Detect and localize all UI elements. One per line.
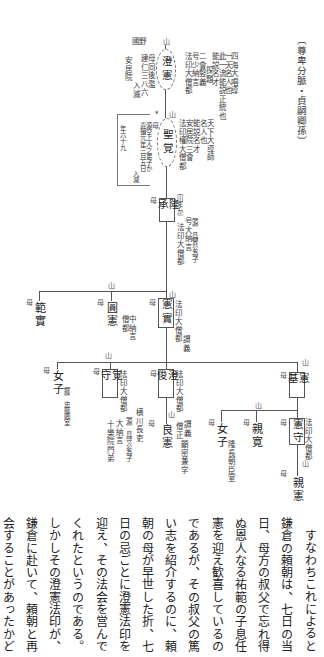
mountain-mark: 山 xyxy=(104,352,111,359)
text-column: 憲を迎え歓喜しているの xyxy=(204,517,227,657)
mother-mark: 母 xyxy=(92,368,99,375)
text-column: しかしその澄憲法印が、 xyxy=(42,517,65,657)
asterisk-mark: * xyxy=(155,110,159,118)
lineage-line xyxy=(165,90,166,118)
person-kenki: 憲基 xyxy=(289,372,305,398)
person-ryoken-name: 良憲 xyxy=(161,424,172,449)
note: 〔源〕具守公為子 xyxy=(125,412,132,462)
mother-mark: 母 xyxy=(279,372,286,379)
children-branch-line xyxy=(57,362,297,363)
grandchildren-branch-line xyxy=(221,410,297,411)
lineage-line xyxy=(110,362,111,369)
note: 横川長吏 xyxy=(134,408,142,442)
place-label: 國野 xyxy=(132,38,146,46)
text-column: い志を紹介するのに、頼 xyxy=(158,517,181,657)
mother-mark: 母 xyxy=(148,299,155,306)
note: 僧都 xyxy=(120,315,128,332)
text-column: 日、母方の叔父で忘れ得 xyxy=(250,517,273,657)
note: 法印大僧都 xyxy=(118,370,126,413)
person-kakushu: 覚守 xyxy=(102,369,118,398)
text-column: ぬ恩人なる祐範の子息任 xyxy=(227,517,250,657)
lineage-line xyxy=(297,445,298,476)
person-chojun: 澄俊 xyxy=(158,369,174,398)
lineage-line xyxy=(221,410,222,422)
note: 隆長朝臣室 xyxy=(226,440,234,483)
note: 嘉禎元年三月五日 xyxy=(138,122,145,172)
person-name: 憲實 xyxy=(161,299,172,327)
mother-mark: 母 xyxy=(42,367,49,374)
sibling-branch-line xyxy=(39,291,166,292)
mother-mark: 母 xyxy=(149,197,156,204)
mother-mark: 母 xyxy=(207,419,214,426)
bracket-note: 〔山まか〕 xyxy=(176,189,183,220)
page-title: 〔尊卑分脈・貞嗣卿孫〕 xyxy=(296,36,306,146)
note: 建仁三八六 xyxy=(139,54,147,97)
note: 入滅 xyxy=(131,81,139,98)
mother-mark: 母 xyxy=(96,299,103,306)
mountain-mark: 山 xyxy=(301,460,308,467)
lineage-line xyxy=(256,410,257,422)
note: 顕密兼学 xyxy=(179,440,187,474)
text-column: 朝の母が早世した折、七 xyxy=(134,517,157,657)
note: 年六十九 xyxy=(119,125,126,150)
note: 〔藤〕忠藤卿室 xyxy=(63,382,70,425)
lineage-line xyxy=(297,362,298,372)
lineage-line xyxy=(166,167,167,198)
mountain-mark: 山 xyxy=(107,282,114,289)
text-column: 迎え、その法会を営んで xyxy=(88,517,111,657)
mountain-mark: 山 xyxy=(301,359,308,366)
text-column: 鎌倉に赴いて、頼朝と再 xyxy=(18,517,41,657)
note: 法印權大僧都 xyxy=(178,119,186,170)
text-column: であるが、その叔父の篤 xyxy=(181,517,204,657)
note: 安居院 xyxy=(123,56,131,82)
note: 讃義 xyxy=(182,420,190,437)
note: 法印大僧都 xyxy=(175,223,183,266)
person-name: 憲基 xyxy=(286,373,308,397)
text-column: 鎌倉の頼朝は、七日の当 xyxy=(274,517,297,657)
lineage-line xyxy=(39,291,40,301)
person-enken-name: 圓憲 xyxy=(106,302,117,327)
person-name: 聖覚 xyxy=(162,129,173,157)
mother-mark: 母 xyxy=(279,419,286,426)
mother-mark: 母 xyxy=(25,299,32,306)
note: 法印大僧都 xyxy=(183,52,191,95)
note: 讃義 xyxy=(181,335,189,352)
person-kenjitsu: 憲實 xyxy=(158,298,174,328)
note: 大納言 xyxy=(114,419,122,445)
text-column: 日の忌ごとに澄憲法印を xyxy=(111,517,134,657)
text-column: 会することがあったかど xyxy=(0,517,18,657)
person-daughter-1-name: 女子 xyxy=(216,423,227,448)
person-choken: 澄憲 xyxy=(156,49,176,90)
text-column: すなわちこれによると xyxy=(297,517,320,657)
note: 法印大僧都 xyxy=(174,370,182,413)
note: 入滅 xyxy=(132,170,139,182)
note: 法印大僧都 xyxy=(303,418,311,461)
lineage-line xyxy=(111,291,112,301)
person-shokaku: 聖覚 xyxy=(157,118,177,167)
note: 十樂院門弟 xyxy=(105,420,113,463)
note: 号大納言 xyxy=(183,217,191,251)
body-text: すなわちこれによると 鎌倉の頼朝は、七日の当 日、母方の叔父で忘れ得 ぬ恩人なる… xyxy=(0,517,320,657)
mountain-mark: 山 xyxy=(168,111,175,118)
mountain-mark: 山 xyxy=(167,411,174,418)
person-name: 澄憲 xyxy=(161,56,172,84)
person-shinken-name: 親憲 xyxy=(292,477,303,502)
mountain-mark: 山 xyxy=(254,402,261,409)
person-daughter-2-name: 女子 xyxy=(52,370,63,395)
mother-mark: 母 xyxy=(279,470,286,477)
mountain-mark: 山 xyxy=(168,291,175,298)
mother-mark: 母 xyxy=(242,419,249,426)
mountain-mark: 山 xyxy=(162,38,169,45)
person-shinkan-name: 親寛 xyxy=(251,423,262,448)
person-name: 憲守 xyxy=(292,419,303,444)
person-hanjitsu-name: 範實 xyxy=(34,302,45,327)
note: 僧正 xyxy=(174,422,182,439)
person-ryusho: 隆承 xyxy=(159,198,175,222)
lineage-line xyxy=(297,398,298,418)
lineage-line xyxy=(166,222,167,298)
text-column: くれたというのである。 xyxy=(65,517,88,657)
mother-mark: 母 xyxy=(147,420,154,427)
lineage-line xyxy=(57,362,58,369)
